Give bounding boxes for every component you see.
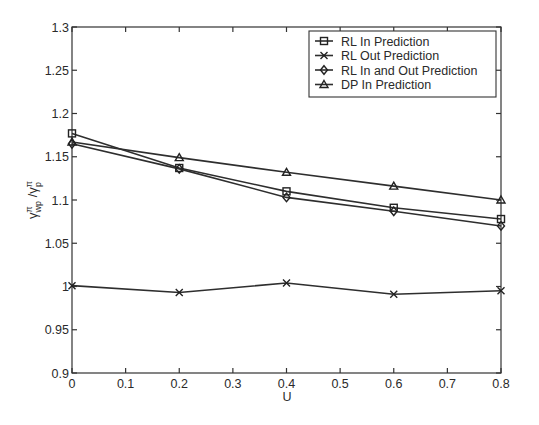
y-tick-label: 1.25: [45, 64, 69, 78]
y-tick-label: 1.1: [52, 194, 69, 208]
y-tick-label: 1.2: [52, 107, 69, 121]
series-line: [72, 283, 501, 294]
legend-label: RL Out Prediction: [341, 49, 439, 63]
y-tick-label: 1: [62, 280, 69, 294]
x-tick-label: 0.3: [224, 377, 241, 391]
y-tick-label: 0.9: [52, 367, 69, 381]
x-tick-label: 0.5: [331, 377, 348, 391]
series-rl-in-prediction: [69, 130, 505, 223]
series-rl-out-prediction: [69, 280, 505, 298]
y-tick-label: 1.05: [45, 237, 69, 251]
y-tick-label: 0.95: [45, 323, 69, 337]
x-tick-label: 0.4: [278, 377, 295, 391]
x-tick-label: 0.7: [439, 377, 456, 391]
x-tick-label: 0.8: [492, 377, 509, 391]
legend-label: RL In and Out Prediction: [341, 64, 477, 78]
series-line: [72, 144, 501, 226]
legend: RL In PredictionRL Out PredictionRL In a…: [309, 31, 496, 97]
x-tick-label: 0.1: [117, 377, 134, 391]
y-tick-label: 1.3: [52, 21, 69, 35]
y-tick-label: 1.15: [45, 150, 69, 164]
x-tick-label: 0: [69, 377, 76, 391]
line-chart: 00.10.20.30.40.50.60.70.80.90.9511.051.1…: [0, 0, 539, 425]
x-tick-label: 0.2: [171, 377, 188, 391]
series-line: [72, 133, 501, 219]
legend-label: DP In Prediction: [341, 78, 431, 92]
svg-text:γπwp /γπp: γπwp /γπp: [24, 181, 43, 219]
x-tick-label: 0.6: [385, 377, 402, 391]
chart-canvas: 00.10.20.30.40.50.60.70.80.90.9511.051.1…: [0, 0, 539, 425]
x-axis-label: U: [282, 390, 291, 404]
series-lines: [68, 130, 505, 298]
legend-label: RL In Prediction: [341, 35, 430, 49]
y-axis-label: γπwp /γπp: [24, 181, 43, 219]
